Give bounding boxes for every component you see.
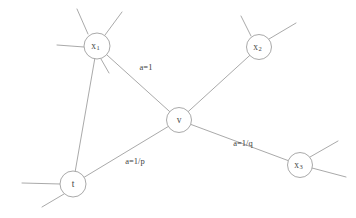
diagram-canvas: x1x2vx3t a=1a=1/pa=1/q [0,0,356,218]
edge-weight-label-v-t: a=1/p [125,156,144,166]
graph-edge [75,59,95,171]
graph-node-t[interactable]: t [60,171,86,197]
pendant-edge [77,9,88,34]
pendant-edge [105,12,122,35]
pendant-edge [310,141,338,157]
pendant-edge [312,168,346,177]
edge-weight-label-x1-v: a=1 [140,62,153,72]
node-circle-x3[interactable] [288,153,313,178]
node-circle-v[interactable] [167,108,192,133]
graph-edge [107,55,170,112]
graph-node-x1[interactable]: x1 [84,33,110,59]
pendant-edge [241,16,251,36]
pendant-edge [101,59,109,73]
graph-diagram: x1x2vx3t a=1a=1/pa=1/q [0,0,356,218]
graph-edge [84,126,168,177]
graph-node-x3[interactable]: x3 [288,153,313,178]
pendant-edge [269,23,296,39]
pendant-edge [57,45,84,47]
graph-edge [191,124,289,160]
node-circle-t[interactable] [60,171,86,197]
graph-edge [188,55,250,111]
pendant-edge [22,183,60,184]
node-circle-x2[interactable] [247,35,272,60]
node-circle-x1[interactable] [84,33,110,59]
node-layer: x1x2vx3t [60,33,313,197]
pendant-edge [42,194,64,207]
graph-node-x2[interactable]: x2 [247,35,272,60]
graph-node-v[interactable]: v [167,108,192,133]
